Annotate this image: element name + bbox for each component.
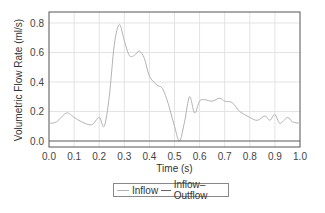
x-tick-label: 0.1: [67, 151, 81, 162]
y-tick-label: 0.6: [30, 47, 44, 58]
x-tick-label: 0.6: [193, 151, 207, 162]
y-axis-label: Volumetric Flow Rate (ml/s): [13, 19, 24, 141]
x-tick-label: 0.7: [218, 151, 232, 162]
chart-legend: Inflow Inflow–Outflow: [113, 183, 229, 197]
x-axis-ticks: 0.00.10.20.30.40.50.60.70.80.91.0: [42, 151, 307, 162]
legend-swatch-inflow-outflow: [161, 190, 170, 191]
x-tick-label: 0.0: [42, 151, 56, 162]
y-axis-ticks: 0.00.20.40.60.8: [30, 18, 44, 147]
x-tick-label: 0.8: [243, 151, 257, 162]
x-tick-label: 0.2: [92, 151, 106, 162]
y-tick-label: 0.2: [30, 106, 44, 117]
y-tick-label: 0.8: [30, 18, 44, 29]
legend-swatch-inflow: [117, 190, 129, 191]
legend-item-inflow: Inflow: [117, 185, 158, 196]
y-tick-label: 0.4: [30, 77, 44, 88]
legend-item-inflow-outflow: Inflow–Outflow: [161, 179, 225, 201]
x-tick-label: 0.3: [117, 151, 131, 162]
x-tick-label: 0.9: [268, 151, 282, 162]
y-tick-label: 0.0: [30, 136, 44, 147]
x-axis-label: Time (s): [156, 163, 192, 174]
x-tick-label: 1.0: [293, 151, 307, 162]
x-tick-label: 0.5: [168, 151, 182, 162]
legend-label-inflow-outflow: Inflow–Outflow: [174, 179, 225, 201]
x-tick-label: 0.4: [142, 151, 156, 162]
legend-label-inflow: Inflow: [132, 185, 158, 196]
